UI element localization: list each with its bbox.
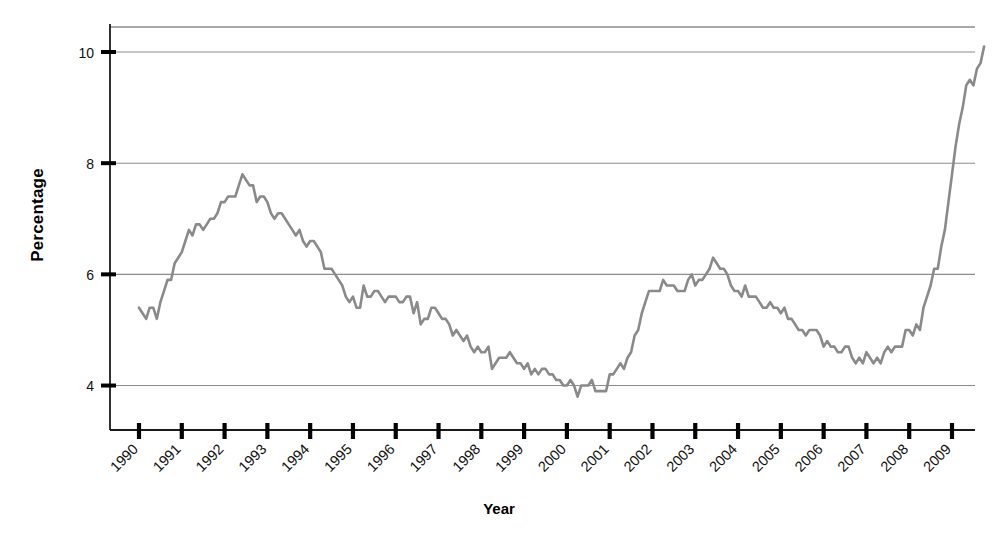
chart-plot-area: 46810 1990199119921993199419951996199719… — [0, 0, 998, 549]
y-tick-label-4: 4 — [86, 378, 94, 394]
x-axis-title: Year — [0, 500, 998, 517]
y-tick-label-10: 10 — [78, 45, 94, 61]
unemployment-rate-chart: 46810 1990199119921993199419951996199719… — [0, 0, 998, 549]
y-tick-label-6: 6 — [86, 267, 94, 283]
y-tick-label-8: 8 — [86, 156, 94, 172]
